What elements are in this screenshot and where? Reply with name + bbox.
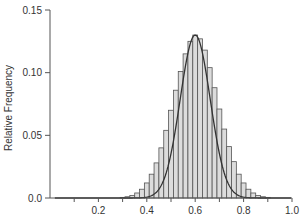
histogram-bar bbox=[188, 41, 193, 198]
histogram-bar bbox=[246, 189, 251, 198]
histogram-bar bbox=[227, 147, 232, 198]
histogram-bars bbox=[120, 35, 270, 198]
histogram-bar bbox=[198, 39, 203, 198]
histogram-bar bbox=[222, 129, 227, 198]
histogram-bar bbox=[178, 71, 183, 198]
histogram-chart: 0.20.40.60.81.00.00.050.100.15 Relative … bbox=[0, 0, 300, 220]
y-tick-label: 0.0 bbox=[28, 193, 42, 204]
y-tick-label: 0.15 bbox=[23, 5, 43, 16]
x-tick-label: 1.0 bbox=[285, 205, 299, 216]
x-tick-label: 0.2 bbox=[91, 205, 105, 216]
histogram-bar bbox=[140, 189, 145, 198]
y-tick-label: 0.05 bbox=[23, 130, 43, 141]
chart-canvas: 0.20.40.60.81.00.00.050.100.15 Relative … bbox=[0, 0, 300, 220]
y-axis-label: Relative Frequency bbox=[3, 65, 14, 151]
x-tick-label: 0.8 bbox=[237, 205, 251, 216]
histogram-bar bbox=[164, 130, 169, 198]
histogram-bar bbox=[173, 90, 178, 198]
x-tick-label: 0.4 bbox=[140, 205, 154, 216]
x-tick-label: 0.6 bbox=[188, 205, 202, 216]
histogram-bar bbox=[144, 183, 149, 198]
histogram-bar bbox=[159, 148, 164, 198]
histogram-bar bbox=[241, 183, 246, 198]
y-tick-label: 0.10 bbox=[23, 67, 43, 78]
histogram-bar bbox=[212, 88, 217, 198]
histogram-bar bbox=[193, 35, 198, 198]
